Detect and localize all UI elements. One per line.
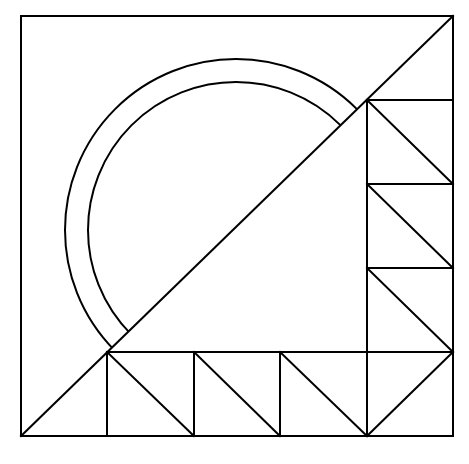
bottom-triangle-1 [107,352,194,436]
corner-triangle [367,352,453,436]
bottom-triangle-3 [280,352,367,436]
right-triangle-1 [367,100,453,184]
quilt-diagram [0,0,469,464]
right-triangle-3 [367,268,453,352]
right-triangle-2 [367,184,453,268]
bottom-triangle-2 [194,352,280,436]
main-diagonal [21,16,453,436]
